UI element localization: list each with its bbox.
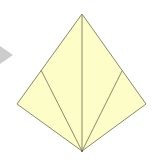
- bottom-point: [81, 150, 83, 152]
- step-arrow-icon: [0, 46, 13, 64]
- origami-diagram: [0, 0, 157, 164]
